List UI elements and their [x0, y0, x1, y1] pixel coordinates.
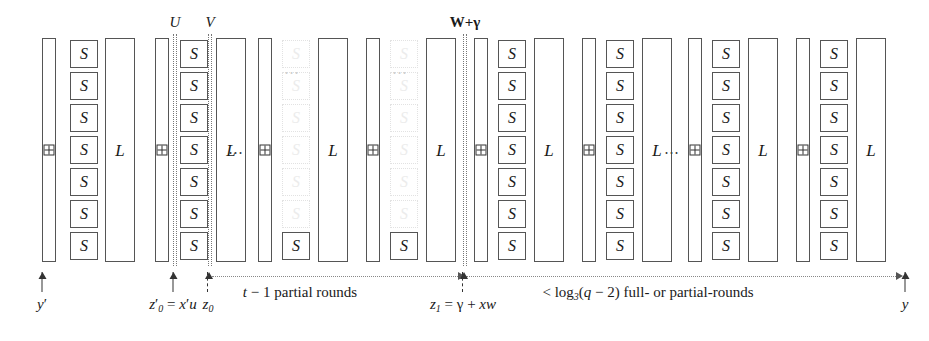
sbox: S	[820, 40, 848, 68]
sbox-ghost: S	[390, 168, 418, 196]
sbox-label: S	[607, 238, 633, 254]
sbox-label: S	[391, 238, 417, 254]
sbox-label: S	[821, 174, 847, 190]
sbox: S	[180, 200, 208, 228]
round-constant-column-g6	[688, 38, 702, 262]
sbox-label: S	[391, 46, 417, 62]
sbox-label: S	[71, 238, 97, 254]
sbox-label: S	[821, 238, 847, 254]
sbox-label: S	[821, 142, 847, 158]
add-icon	[368, 145, 379, 156]
sbox-label: S	[181, 110, 207, 126]
sbox: S	[498, 104, 526, 132]
sbox: S	[606, 200, 634, 228]
sbox: S	[712, 136, 740, 164]
sbox: S	[820, 72, 848, 100]
sbox: S	[606, 168, 634, 196]
round-constant-column-g3	[366, 38, 380, 262]
sbox-label: S	[181, 206, 207, 222]
sbox-label: S	[71, 110, 97, 126]
marker-line-V	[208, 34, 209, 266]
sbox-label: S	[499, 174, 525, 190]
sbox-label: S	[283, 46, 309, 62]
sbox-ghost: S	[390, 136, 418, 164]
sbox-label: S	[607, 46, 633, 62]
sbox-label: S	[821, 78, 847, 94]
add-icon	[44, 145, 55, 156]
arrow-yprime	[42, 272, 43, 292]
linear-layer-label: L	[749, 142, 777, 159]
arrow-label-z0: z0	[203, 296, 214, 314]
linear-layer-label: L	[319, 142, 347, 159]
sbox: S	[70, 136, 98, 164]
add-icon	[690, 145, 701, 156]
linear-layer-column-g2: L	[318, 38, 348, 262]
sbox-label: S	[607, 78, 633, 94]
add-icon	[584, 145, 595, 156]
linear-layer-column-g3: L	[426, 38, 456, 262]
sbox: S	[180, 72, 208, 100]
sbox-label: S	[391, 174, 417, 190]
marker-label-Wgamma: W+γ	[450, 14, 481, 31]
linear-layer-label: L	[857, 142, 885, 159]
linear-layer-label: L	[535, 142, 563, 159]
sbox-label: S	[283, 142, 309, 158]
sbox-ghost: S	[390, 104, 418, 132]
sbox: S	[820, 200, 848, 228]
sbox-ghost: S	[282, 136, 310, 164]
span-line-full-rounds	[466, 276, 900, 277]
add-icon	[476, 145, 487, 156]
marker-line-V-b	[211, 34, 212, 266]
sbox: S	[180, 104, 208, 132]
sbox-label: S	[607, 110, 633, 126]
sbox-label: S	[71, 142, 97, 158]
sbox: S	[712, 200, 740, 228]
faint-ellipsis-1: ⋯	[392, 63, 408, 81]
sbox-label: S	[499, 110, 525, 126]
round-constant-column-g7	[796, 38, 810, 262]
sbox-label: S	[283, 238, 309, 254]
round-constant-column-g5	[582, 38, 596, 262]
arrow-label-y: y	[902, 296, 909, 313]
group-ellipsis-0: ⋯	[228, 143, 244, 161]
sbox-label: S	[181, 78, 207, 94]
sbox-label: S	[391, 206, 417, 222]
sbox-label: S	[283, 110, 309, 126]
sbox-label: S	[499, 78, 525, 94]
sbox-label: S	[821, 46, 847, 62]
sbox: S	[498, 136, 526, 164]
span-line-partial-rounds	[212, 276, 462, 277]
diagram-canvas: SSSSSSSLSSSSSSSLSSSSSSSLSSSSSSSLSSSSSSSL…	[0, 0, 929, 341]
sbox-label: S	[713, 206, 739, 222]
sbox-label: S	[391, 110, 417, 126]
arrow-label-z1: z1 = γ + xw	[430, 296, 496, 314]
sbox-label: S	[71, 174, 97, 190]
sbox: S	[820, 168, 848, 196]
round-constant-column-g4	[474, 38, 488, 262]
sbox: S	[606, 232, 634, 260]
sbox: S	[180, 168, 208, 196]
sbox-label: S	[499, 238, 525, 254]
round-constant-column-g2	[258, 38, 272, 262]
sbox: S	[820, 104, 848, 132]
sbox-label: S	[71, 206, 97, 222]
sbox-ghost: S	[390, 200, 418, 228]
sbox-label: S	[713, 238, 739, 254]
sbox-ghost: S	[282, 200, 310, 228]
marker-line-U-b	[176, 34, 177, 266]
sbox-label: S	[181, 174, 207, 190]
sbox-label: S	[713, 46, 739, 62]
sbox-label: S	[283, 174, 309, 190]
sbox-label: S	[607, 142, 633, 158]
sbox: S	[70, 168, 98, 196]
sbox: S	[712, 104, 740, 132]
group-ellipsis-1: ⋯	[664, 143, 680, 161]
sbox: S	[498, 232, 526, 260]
span-label-full-rounds: < log3(q − 2) full- or partial-rounds	[542, 284, 753, 302]
sbox: S	[606, 104, 634, 132]
sbox: S	[712, 168, 740, 196]
span-label-partial-rounds: t − 1 partial rounds	[243, 284, 357, 301]
sbox: S	[70, 104, 98, 132]
linear-layer-label: L	[106, 142, 134, 159]
sbox-label: S	[499, 206, 525, 222]
